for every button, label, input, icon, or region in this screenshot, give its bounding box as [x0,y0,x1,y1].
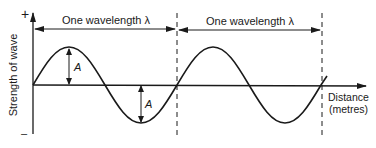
wavelength-label-2: One wavelength λ [206,15,295,27]
positive-mark: + [21,6,29,22]
wavelength-label-1: One wavelength λ [62,14,151,26]
x-axis-label-line1: Distance [328,91,369,103]
wavelength-boundaries [177,13,322,139]
y-axis-label: Strength of wave [7,34,19,117]
amplitude-label-1: A [73,61,81,73]
amplitude-label-2: A [144,98,152,110]
wave-diagram: + – Strength of wave Distance (metres) O… [0,0,376,148]
x-axis-label-line2: (metres) [329,103,368,115]
negative-mark: – [21,127,28,139]
y-axis: + – Strength of wave [7,6,33,139]
